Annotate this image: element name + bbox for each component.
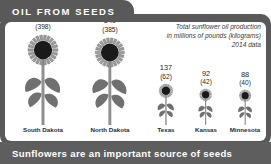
chart-item: 92(42) Kansas (187, 70, 225, 133)
state-label: Kansas (195, 126, 217, 133)
chart-item: 137(62) Texas (147, 64, 185, 133)
value-label-group: 92(42) (200, 70, 212, 87)
value-kilograms: (62) (160, 73, 172, 81)
chart-item: 849(385) North Dakota (78, 17, 142, 133)
caption-line-2: in millions of pounds (kilograms) (139, 31, 261, 40)
chart-item: 88(40) Minnesota (226, 71, 264, 133)
caption-line-3: 2014 data (139, 40, 261, 49)
state-label: Minnesota (230, 126, 261, 133)
state-label: North Dakota (91, 126, 130, 133)
value-pounds: 137 (160, 64, 172, 73)
sunflower-icon (190, 88, 221, 125)
sunflower-icon (148, 83, 184, 125)
value-label-group: 137(62) (160, 64, 172, 81)
title-tab: OIL FROM SEEDS (0, 0, 134, 22)
sunflower-icon (230, 89, 260, 125)
caption-line-1: Total sunflower oil production (139, 22, 261, 31)
value-kilograms: (398) (35, 23, 50, 31)
sunflower-icon (4, 33, 82, 125)
value-kilograms: (42) (200, 78, 212, 86)
value-kilograms: (385) (102, 26, 117, 34)
sunflower-icon (72, 36, 148, 125)
value-kilograms: (40) (239, 79, 251, 87)
value-pounds: 88 (239, 71, 251, 80)
footer-banner: Sunflowers are an important source of se… (0, 142, 271, 164)
state-label: Texas (157, 126, 174, 133)
value-label-group: 88(40) (239, 71, 251, 88)
state-label: South Dakota (23, 126, 63, 133)
chart-item: 877(398) South Dakota (11, 15, 75, 134)
value-pounds: 92 (200, 70, 212, 79)
page-title: OIL FROM SEEDS (12, 6, 116, 17)
footer-text: Sunflowers are an important source of se… (12, 148, 232, 159)
chart-caption: Total sunflower oil production in millio… (139, 22, 261, 49)
